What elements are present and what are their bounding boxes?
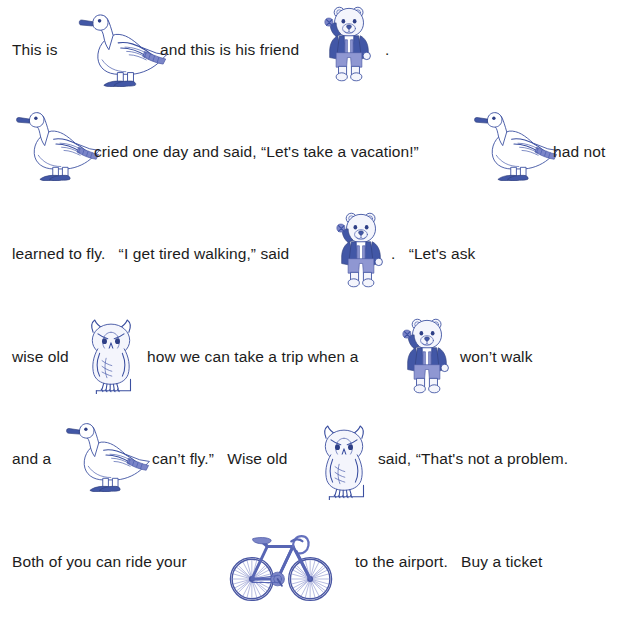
line-3-text-a: learned to fly. “I get tired walking,” s… [12,245,289,263]
owl-icon [80,316,142,394]
line-4-text-b: how we can take a trip when a [147,348,358,366]
bicycle-icon [217,531,345,603]
line-5-text-a: and a [12,450,51,468]
bear-icon [320,4,378,82]
line-5-text-c: said, “That's not a problem. [378,450,568,468]
line-6-text-a: Both of you can ride your [12,553,187,571]
duck-icon [60,418,160,492]
line-2-text-b: had not [553,143,605,161]
line-4-text-c: won’t walk [460,348,533,366]
line-6-text-b: to the airport. Buy a ticket [355,553,542,571]
line-1-text-b: and this is his friend [160,41,299,59]
line-2-text-a: cried one day and said, “Let's take a va… [94,143,419,161]
worksheet-page: This is and this is his friend . cried o… [0,0,626,619]
line-5-text-b: can’t fly.” Wise old [152,450,287,468]
line-1-text-c: . [385,41,389,59]
bear-icon [398,316,456,394]
line-3-text-b: . “Let's ask [391,245,475,263]
line-4-text-a: wise old [12,348,69,366]
line-1-text-a: This is [12,41,57,59]
owl-icon [313,422,375,500]
bear-icon [332,210,390,288]
